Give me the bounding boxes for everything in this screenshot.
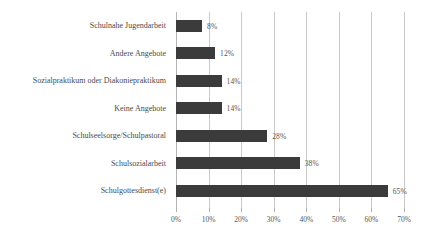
xtick-mark (371, 208, 372, 212)
xtick-label: 60% (365, 215, 379, 224)
category-label-row: Andere Angebote (0, 40, 171, 68)
xtick-label: 30% (267, 215, 281, 224)
category-label-row: Schulseelsorge/Schulpastoral (0, 122, 171, 150)
bar-row: 8% (176, 12, 404, 40)
category-label-row: Schulnahe Jugendarbeit (0, 12, 171, 40)
bar-keine-angebote (176, 102, 222, 114)
xtick-label: 0% (171, 215, 181, 224)
bar-value-label: 14% (227, 104, 241, 113)
category-label: Keine Angebote (114, 104, 166, 113)
xtick-label: 10% (202, 215, 216, 224)
gridline-70 (404, 12, 405, 208)
bar-value-label: 14% (227, 76, 241, 85)
category-label: Sozialpraktikum oder Diakoniepraktikum (33, 76, 166, 85)
bar-schulseelsorge-schulpastoral (176, 130, 267, 142)
bar-row: 14% (176, 95, 404, 123)
xtick-mark (274, 208, 275, 212)
category-label: Andere Angebote (110, 49, 166, 58)
bar-schulsozialarbeit (176, 157, 300, 169)
xtick-mark (339, 208, 340, 212)
xtick-mark (306, 208, 307, 212)
xtick-label: 40% (299, 215, 313, 224)
plot-area: 8% 12% 14% 14% 28% 38% 65% (176, 12, 404, 208)
bar-chart: Schulnahe Jugendarbeit Andere Angebote S… (0, 0, 424, 240)
category-label: Schulgottesdienst(e) (101, 186, 166, 195)
bar-value-label: 65% (393, 186, 407, 195)
bar-row: 28% (176, 122, 404, 150)
bar-value-label: 38% (305, 159, 319, 168)
xtick-label: 70% (397, 215, 411, 224)
category-label: Schulseelsorge/Schulpastoral (72, 131, 166, 140)
bar-andere-angebote (176, 47, 215, 59)
category-label-row: Keine Angebote (0, 95, 171, 123)
bar-sozialpraktikum-oder-diakoniepraktikum (176, 75, 222, 87)
bar-row: 38% (176, 150, 404, 178)
category-label-row: Schulsozialarbeit (0, 150, 171, 178)
xtick-mark (209, 208, 210, 212)
category-label: Schulnahe Jugendarbeit (90, 21, 166, 30)
bar-row: 65% (176, 177, 404, 205)
category-label-row: Schulgottesdienst(e) (0, 177, 171, 205)
category-label-row: Sozialpraktikum oder Diakoniepraktikum (0, 67, 171, 95)
bar-schulgottesdienste (176, 185, 388, 197)
bar-schulnahe-jugendarbeit (176, 20, 202, 32)
xtick-mark (176, 208, 177, 212)
bar-value-label: 28% (272, 131, 286, 140)
bar-value-label: 12% (220, 49, 234, 58)
xtick-mark (404, 208, 405, 212)
category-axis-labels: Schulnahe Jugendarbeit Andere Angebote S… (0, 12, 171, 208)
bar-value-label: 8% (207, 21, 217, 30)
category-label: Schulsozialarbeit (111, 159, 166, 168)
xtick-mark (241, 208, 242, 212)
bar-row: 12% (176, 40, 404, 68)
bar-row: 14% (176, 67, 404, 95)
xtick-label: 50% (332, 215, 346, 224)
x-axis: 0% 10% 20% 30% 40% 50% 60% 70% (176, 208, 404, 232)
xtick-label: 20% (234, 215, 248, 224)
